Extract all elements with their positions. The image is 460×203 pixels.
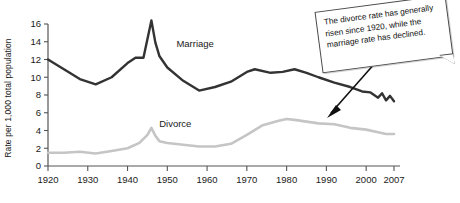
y-tick-label: 6 <box>36 107 41 118</box>
x-tick-label: 1920 <box>37 174 58 185</box>
x-tick-label: 1940 <box>117 174 138 185</box>
chart-figure: Rate per 1,000 total population 02468101… <box>0 0 460 203</box>
x-tick-label: 1990 <box>316 174 337 185</box>
x-tick-label: 1980 <box>276 174 297 185</box>
y-tick-label: 10 <box>30 72 41 83</box>
arrow-head <box>327 105 341 118</box>
callout-tail <box>440 54 454 66</box>
x-tick-label: 1960 <box>197 174 218 185</box>
x-tick-group: 1920193019401950196019701980199020002007 <box>37 166 404 185</box>
y-tick-label: 0 <box>36 160 41 171</box>
x-tick-label: 2007 <box>383 174 404 185</box>
series-line-divorce <box>48 119 394 154</box>
y-tick-label: 8 <box>36 89 41 100</box>
x-tick-label: 1930 <box>77 174 98 185</box>
y-tick-label: 14 <box>30 36 41 47</box>
series-label-marriage: Marriage <box>176 38 214 49</box>
x-tick-label: 1950 <box>157 174 178 185</box>
y-tick-label: 4 <box>36 125 41 136</box>
y-tick-label: 12 <box>30 54 41 65</box>
y-tick-label: 2 <box>36 143 41 154</box>
series-label-divorce: Divorce <box>159 118 191 129</box>
x-tick-label: 1970 <box>236 174 257 185</box>
x-tick-label: 2000 <box>356 174 377 185</box>
y-tick-label: 16 <box>30 18 41 29</box>
y-tick-group: 0246810121416 <box>30 18 48 171</box>
annotation-text: The divorce rate has generally risen sin… <box>323 1 445 51</box>
